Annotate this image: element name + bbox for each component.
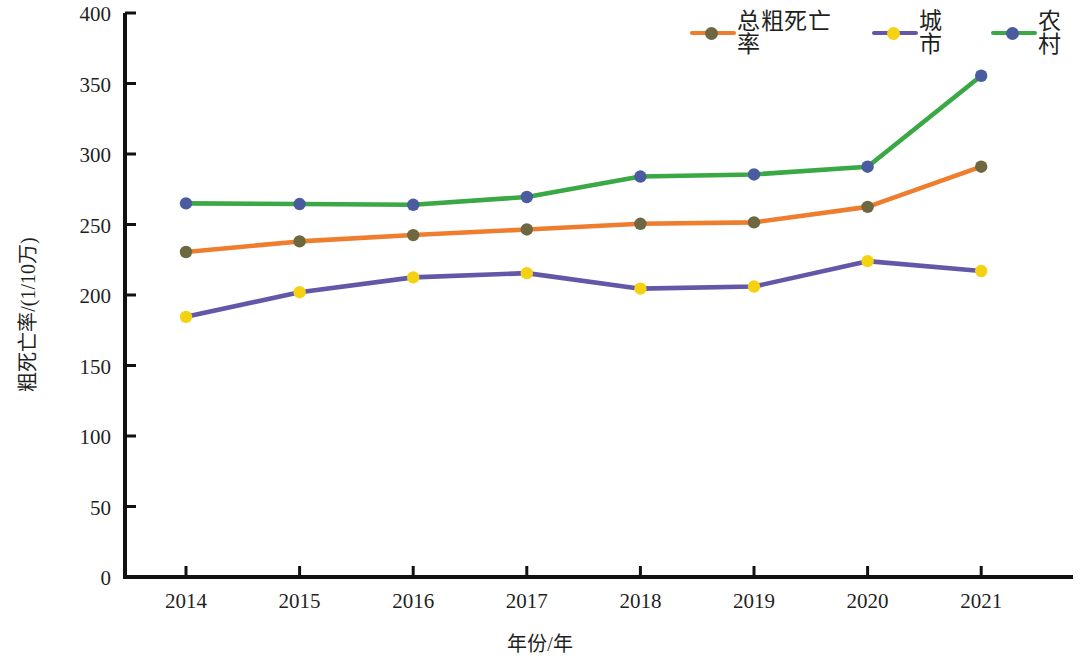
- legend-item-total[interactable]: 总粗死亡率: [690, 10, 842, 56]
- legend-label-urban: 城市: [919, 10, 961, 56]
- y-axis-tick-label: 250: [80, 214, 112, 238]
- data-point[interactable]: [521, 267, 533, 279]
- y-axis-tick-label: 300: [80, 143, 112, 167]
- data-point[interactable]: [861, 160, 873, 172]
- data-point[interactable]: [521, 223, 533, 235]
- data-point[interactable]: [293, 198, 305, 210]
- x-axis-tick-label: 2014: [165, 589, 208, 613]
- data-point[interactable]: [180, 311, 192, 323]
- x-axis-tick-label: 2015: [279, 589, 321, 613]
- legend-item-urban[interactable]: 城市: [872, 10, 961, 56]
- legend-label-rural: 农村: [1038, 10, 1080, 56]
- data-point[interactable]: [407, 199, 419, 211]
- legend-marker-total: [690, 26, 731, 40]
- legend-label-total: 总粗死亡率: [737, 10, 842, 56]
- x-axis-tick-label: 2018: [619, 589, 661, 613]
- data-point[interactable]: [407, 271, 419, 283]
- legend-item-rural[interactable]: 农村: [991, 10, 1080, 56]
- data-point[interactable]: [748, 280, 760, 292]
- y-axis-tick-label: 100: [80, 425, 112, 449]
- chart-legend: 总粗死亡率 城市 农村: [690, 10, 1080, 56]
- data-point[interactable]: [975, 70, 987, 82]
- y-axis-tick-label: 150: [80, 355, 112, 379]
- y-axis-tick-label: 0: [101, 566, 112, 590]
- data-point[interactable]: [634, 170, 646, 182]
- y-axis-title: 粗死亡率/(1/10万): [12, 195, 41, 435]
- data-point[interactable]: [521, 191, 533, 203]
- x-axis-tick-label: 2020: [847, 589, 889, 613]
- y-axis-tick-label: 400: [80, 2, 112, 26]
- series-line-城市: [186, 261, 981, 317]
- data-point[interactable]: [861, 201, 873, 213]
- legend-marker-rural: [991, 26, 1032, 40]
- chart-container: 总粗死亡率 城市 农村 0501001502002503003504002014…: [0, 0, 1080, 661]
- y-axis-tick-label: 350: [80, 73, 112, 97]
- data-point[interactable]: [861, 255, 873, 267]
- data-point[interactable]: [634, 282, 646, 294]
- x-axis-title: 年份/年: [0, 628, 1080, 657]
- data-point[interactable]: [748, 168, 760, 180]
- x-axis-tick-label: 2016: [392, 589, 434, 613]
- data-point[interactable]: [975, 265, 987, 277]
- data-point[interactable]: [180, 246, 192, 258]
- data-point[interactable]: [293, 235, 305, 247]
- x-axis-tick-label: 2021: [960, 589, 1002, 613]
- data-point[interactable]: [180, 197, 192, 209]
- series-line-农村: [186, 76, 981, 205]
- x-axis-tick-label: 2019: [733, 589, 775, 613]
- data-point[interactable]: [293, 286, 305, 298]
- data-point[interactable]: [634, 218, 646, 230]
- legend-marker-urban: [872, 26, 913, 40]
- data-point[interactable]: [407, 229, 419, 241]
- y-axis-tick-label: 50: [90, 496, 111, 520]
- data-point[interactable]: [975, 160, 987, 172]
- data-point[interactable]: [748, 216, 760, 228]
- x-axis-tick-label: 2017: [506, 589, 548, 613]
- y-axis-tick-label: 200: [80, 284, 112, 308]
- line-chart-plot: 0501001502002503003504002014201520162017…: [0, 0, 1080, 661]
